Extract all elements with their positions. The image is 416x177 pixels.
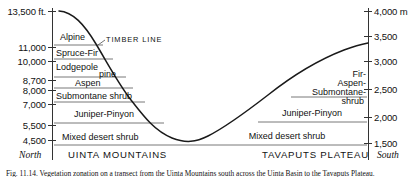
left-tick-label-7000: 7,000 [0,100,46,110]
left-tick-label-4500: 4,500 [0,136,46,146]
left-tick-label-5500: 5,500 [0,121,46,131]
region-label-uinta-mountains: UINTA MOUNTAINS [68,150,167,160]
left-tick-label-11000: 11,000 [0,43,46,53]
band-label-juniper-pinyon: Juniper-Pinyon [74,110,134,119]
band-label-aspen: Aspen [75,79,101,88]
compass-label-north: North [19,150,41,160]
right-tick-label-2500: 2,500 [374,85,397,95]
right-tick-label-4000: 4,000 m [374,7,408,17]
band-label-submontane-shrub: Submontane shrub [56,92,132,101]
right-tick-label-3000: 3,000 [374,57,397,67]
region-label-tavaputs-plateau: TAVAPUTS PLATEAU [262,150,369,160]
band-label-juniper-pinyon-right: Juniper-Pinyon [262,109,362,118]
left-tick-label-10000: 10,000 [0,57,46,67]
compass-label-south: South [377,150,399,160]
band-label-spruce-fir: Spruce-Fir [56,49,98,58]
band-label-shrub-right: shrub [300,97,364,106]
timber-line-label: TIMBER LINE [106,36,162,43]
vegetation-profile-figure: 13,500 ft. 11,000 10,000 8,700 8,000 7,0… [0,0,416,177]
figure-caption: Fig. 11.14. Vegetation zonation on a tra… [6,170,410,177]
right-tick-label-3500: 3,500 [374,32,397,42]
band-label-alpine: Alpine [60,33,85,42]
band-label-mixed-desert-shrub-right: Mixed desert shrub [222,132,352,141]
right-tick-label-1500: 1,500 [374,139,397,149]
left-tick-label-8000: 8,000 [0,86,46,96]
band-label-mixed-desert-shrub: Mixed desert shrub [62,133,139,142]
right-tick-label-2000: 2,000 [374,113,397,123]
band-label-lodgepole: Lodgepole [56,63,98,72]
timber-line-leader [98,40,105,45]
band-label-lodgepole-pine: pine [99,70,116,79]
left-tick-label-13500: 13,500 ft. [0,7,46,17]
